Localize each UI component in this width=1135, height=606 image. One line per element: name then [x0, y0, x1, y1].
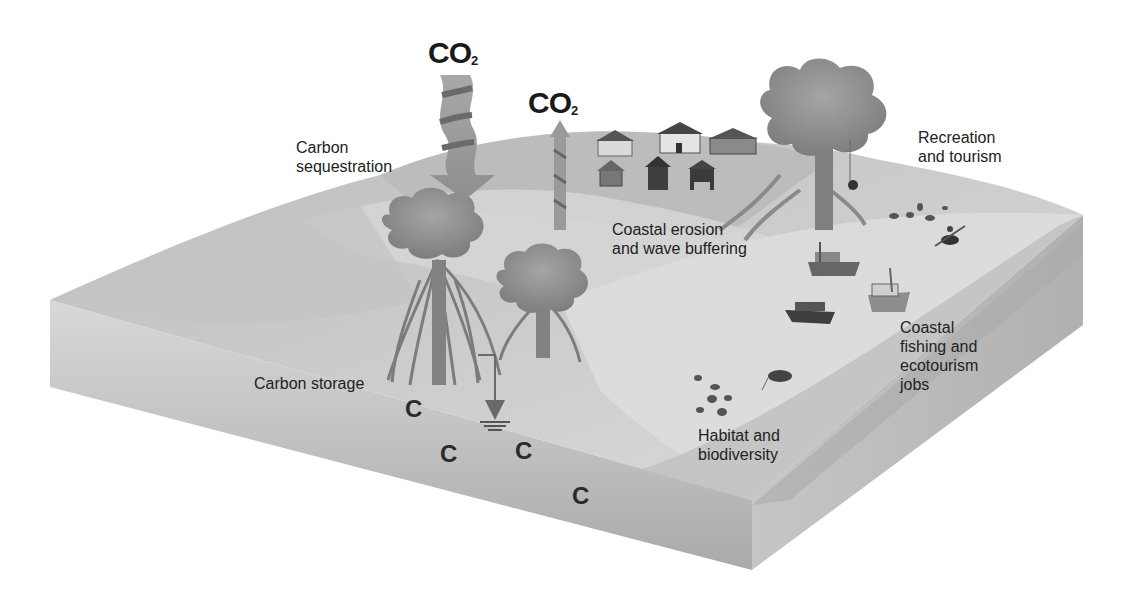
label-habitat-biodiversity: Habitat and biodiversity: [698, 426, 780, 464]
carbon-symbol: C: [405, 395, 422, 423]
label-carbon-sequestration: Carbon sequestration: [296, 138, 392, 176]
label-coastal-erosion: Coastal erosion and wave buffering: [612, 220, 747, 258]
label-coastal-fishing: Coastal fishing and ecotourism jobs: [900, 318, 978, 394]
block-top-surface: [50, 131, 1083, 500]
label-recreation-tourism: Recreation and tourism: [918, 128, 1002, 166]
label-carbon-storage: Carbon storage: [254, 374, 364, 393]
co2-out-label: CO2: [528, 86, 578, 120]
co2-down-arrow-icon: [430, 75, 495, 200]
co2-in-label: CO2: [428, 36, 478, 70]
house-icon: [657, 122, 703, 153]
carbon-symbol: C: [440, 440, 457, 468]
carbon-symbol: C: [515, 437, 532, 465]
house-icon: [708, 128, 758, 154]
carbon-symbol: C: [572, 482, 589, 510]
